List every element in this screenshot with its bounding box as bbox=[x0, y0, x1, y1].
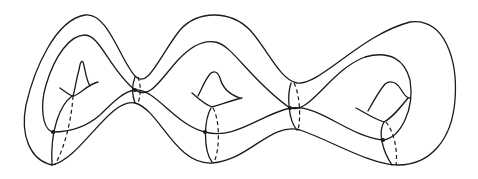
middle-curve-back bbox=[213, 108, 218, 162]
marked-point bbox=[203, 130, 207, 134]
genus-3-surface-figure bbox=[0, 0, 478, 179]
inner-boundary bbox=[43, 35, 411, 140]
marked-point bbox=[133, 88, 137, 92]
marked-point bbox=[288, 106, 292, 110]
left-hole bbox=[60, 61, 98, 96]
outer-boundary bbox=[24, 15, 455, 165]
marked-point bbox=[381, 138, 385, 142]
middle-hole bbox=[192, 72, 242, 107]
middle-curve-front bbox=[206, 108, 213, 162]
waist-2-curve-back bbox=[294, 83, 300, 130]
surface-drawing bbox=[0, 0, 478, 179]
right-hole bbox=[356, 82, 410, 122]
marked-point bbox=[51, 130, 55, 134]
belt-line bbox=[53, 90, 383, 140]
